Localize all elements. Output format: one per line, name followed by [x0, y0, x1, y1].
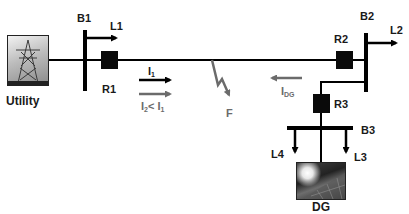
relay-r2: [336, 51, 353, 69]
load-l3-label: L3: [354, 152, 367, 163]
dg-label: DG: [312, 201, 330, 213]
current-i2-relation-label: I2< I1: [141, 101, 164, 113]
bus-b3-label: B3: [361, 125, 375, 136]
transmission-tower-icon: [8, 36, 48, 85]
relay-r1: [101, 51, 118, 69]
load-l4-label: L4: [271, 149, 284, 160]
single-line-diagram: Utility B1 B2 B3 L1 L2 L3 L4 R1 R2 R3 I1…: [0, 0, 409, 214]
bus-b2-label: B2: [360, 11, 374, 22]
load-l1-label: L1: [110, 21, 123, 32]
relay-r3-label: R3: [334, 99, 348, 110]
current-i1-label: I1: [148, 66, 155, 78]
utility-label: Utility: [6, 95, 39, 107]
dg-solar-panel-image: [296, 162, 346, 200]
current-idg-label: IDG: [281, 86, 295, 98]
utility-tower-image: [7, 35, 49, 86]
fault-label: F: [226, 108, 233, 119]
fault-symbol: [212, 60, 229, 95]
bus-b1-label: B1: [77, 13, 91, 24]
solar-panel-icon: [297, 163, 345, 199]
load-l2-label: L2: [390, 25, 403, 36]
relay-r2-label: R2: [334, 34, 348, 45]
relay-r3: [313, 94, 330, 113]
relay-r1-label: R1: [102, 84, 116, 95]
